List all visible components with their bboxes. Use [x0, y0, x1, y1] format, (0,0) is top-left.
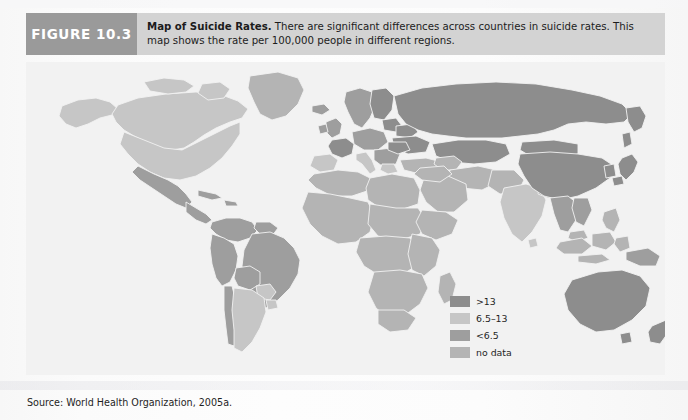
figure-header: FIGURE 10.3 Map of Suicide Rates. There …: [26, 13, 665, 55]
world-map-graphic: [26, 62, 665, 375]
region-japan-south: [612, 176, 624, 186]
source-line: Source: World Health Organization, 2005a…: [27, 397, 232, 408]
legend-swatch-nodata: [450, 347, 470, 358]
scan-band-top: [0, 0, 688, 8]
figure-number-tag: FIGURE 10.3: [26, 13, 137, 55]
figure-caption-title: Map of Suicide Rates.: [147, 21, 272, 32]
legend-label-low: <6.5: [476, 330, 499, 341]
region-sri-lanka: [528, 238, 538, 248]
legend-item-high: >13: [450, 294, 560, 309]
legend-item-mid: 6.5–13: [450, 311, 560, 326]
legend-label-nodata: no data: [476, 347, 512, 358]
map-panel: >13 6.5–13 <6.5 no data: [26, 62, 665, 375]
figure-caption-box: Map of Suicide Rates. There are signific…: [137, 13, 665, 55]
legend-label-mid: 6.5–13: [476, 313, 508, 324]
map-legend: >13 6.5–13 <6.5 no data: [450, 294, 560, 362]
region-korea: [604, 164, 616, 178]
legend-label-high: >13: [476, 296, 496, 307]
legend-swatch-mid: [450, 313, 470, 324]
region-antarctica: [26, 368, 665, 375]
region-tasmania: [620, 332, 632, 344]
legend-swatch-low: [450, 330, 470, 341]
legend-item-nodata: no data: [450, 345, 560, 360]
region-uruguay: [266, 300, 278, 310]
legend-swatch-high: [450, 296, 470, 307]
figure-caption: Map of Suicide Rates. There are signific…: [147, 20, 655, 48]
legend-item-low: <6.5: [450, 328, 560, 343]
region-ireland: [318, 124, 328, 134]
scan-band-bottom: [0, 381, 688, 390]
